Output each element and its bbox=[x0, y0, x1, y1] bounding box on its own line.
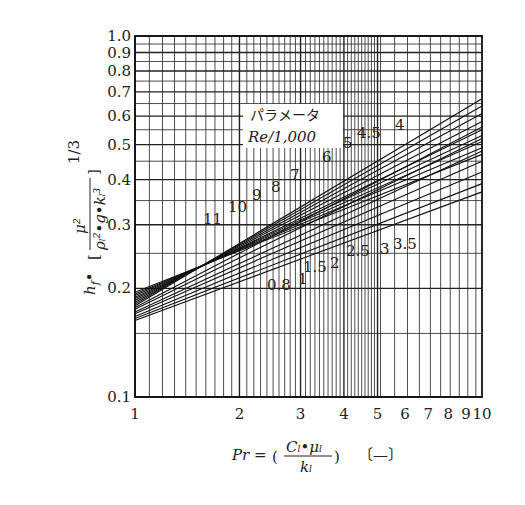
series-line-1.5 bbox=[135, 172, 482, 317]
series-label: 5 bbox=[343, 134, 353, 152]
x-frac-num: Cl•μl bbox=[286, 438, 322, 456]
legend-title: パラメータ bbox=[250, 107, 320, 123]
x-frac-den: kl bbox=[300, 458, 312, 476]
x-tick: 7 bbox=[423, 405, 433, 423]
x-tick: 4 bbox=[339, 405, 349, 423]
y-tick: 0.8 bbox=[107, 62, 131, 80]
series-label: 7 bbox=[290, 166, 300, 184]
y-tick: 0.2 bbox=[107, 279, 131, 297]
x-tick: 1 bbox=[130, 405, 140, 423]
y-tick: 1.0 bbox=[107, 27, 131, 45]
y-exp: 1/3 bbox=[65, 140, 83, 164]
series-label: 1 bbox=[298, 270, 308, 288]
series-label: 3 bbox=[380, 240, 390, 258]
series-label: 11 bbox=[203, 210, 222, 228]
y-tick: 0.6 bbox=[107, 107, 131, 125]
paren-left: ( bbox=[272, 448, 278, 466]
bracket-right: ] bbox=[85, 169, 103, 175]
y-frac-num: μ² bbox=[71, 218, 89, 234]
y-axis-label: hf• [ μ² ρl²•g•kl³ ] 1/3 bbox=[65, 140, 109, 295]
x-axis-label: Pr = ( Cl•μl kl ) 〔—〕 bbox=[231, 438, 403, 476]
x-tick: 10 bbox=[472, 405, 491, 423]
x-tick: 2 bbox=[235, 405, 245, 423]
series-label: 0.8 bbox=[267, 276, 291, 294]
series-label: 9 bbox=[252, 186, 262, 204]
series-label: 2.5 bbox=[346, 242, 370, 260]
legend-subtitle: Re/1,000 bbox=[247, 128, 317, 146]
series-line-3 bbox=[135, 139, 482, 310]
chart: 123456789100.10.20.30.40.50.60.70.80.91.… bbox=[0, 0, 525, 505]
series-label: 10 bbox=[228, 198, 247, 216]
y-axis-h: hf• bbox=[81, 272, 102, 295]
y-tick: 0.3 bbox=[107, 216, 131, 234]
series-label: 2 bbox=[330, 254, 340, 272]
x-tick: 9 bbox=[461, 405, 471, 423]
x-axis-main: Pr = bbox=[231, 446, 267, 464]
x-axis-unit: 〔—〕 bbox=[358, 446, 403, 464]
bracket-left: [ bbox=[85, 254, 103, 260]
y-tick: 0.1 bbox=[107, 388, 131, 406]
x-tick: 6 bbox=[400, 405, 410, 423]
y-frac-den: ρl²•g•kl³ bbox=[91, 188, 109, 251]
series-line-3.5 bbox=[135, 127, 482, 308]
series-label: 8 bbox=[271, 178, 281, 196]
y-tick: 0.7 bbox=[107, 83, 131, 101]
series-label: 4.5 bbox=[357, 124, 381, 142]
series-line-2 bbox=[135, 161, 482, 314]
series-line-1 bbox=[135, 184, 482, 319]
paren-right: ) bbox=[334, 448, 340, 466]
x-tick: 8 bbox=[444, 405, 454, 423]
series-label: 4 bbox=[395, 116, 405, 134]
y-tick: 0.5 bbox=[107, 136, 131, 154]
series-label: 6 bbox=[322, 148, 332, 166]
x-tick: 5 bbox=[373, 405, 383, 423]
series-label: 3.5 bbox=[393, 235, 417, 253]
y-tick: 0.9 bbox=[107, 44, 131, 62]
y-tick: 0.4 bbox=[107, 171, 131, 189]
x-tick: 3 bbox=[296, 405, 306, 423]
